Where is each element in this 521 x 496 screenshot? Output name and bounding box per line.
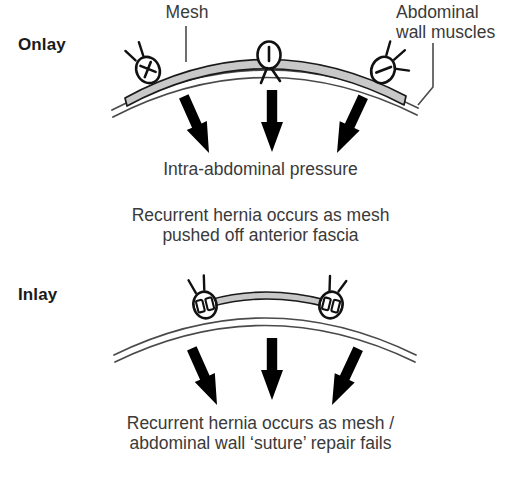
wall-leader-line <box>418 43 433 105</box>
onlay-caption-line1: Recurrent hernia occurs as mesh <box>132 205 390 225</box>
inlay-abdominal-wall-inner <box>115 326 415 363</box>
mesh-callout-label: Mesh <box>147 2 227 22</box>
onlay-section-label: Onlay <box>18 35 66 55</box>
inlay-caption-line2: abdominal wall ‘suture’ repair fails <box>130 433 392 453</box>
onlay-pressure-arrow-left <box>174 92 219 158</box>
onlay-caption-line2: pushed off anterior fascia <box>162 225 358 245</box>
onlay-caption: Recurrent hernia occurs as meshpushed of… <box>0 205 521 246</box>
inlay-abdominal-wall-outer <box>114 318 416 355</box>
inlay-mesh-band <box>209 292 327 307</box>
inlay-suture-knot-left <box>187 274 220 321</box>
inlay-caption: Recurrent hernia occurs as mesh /abdomin… <box>0 413 521 454</box>
abdominal-wall-callout-line1: Abdominal <box>396 2 479 22</box>
onlay-pressure-arrow-right <box>327 92 373 157</box>
inlay-pressure-arrow-left <box>182 344 227 410</box>
inlay-pressure-arrow-right <box>322 344 368 409</box>
inlay-caption-line1: Recurrent hernia occurs as mesh / <box>127 413 394 433</box>
onlay-pressure-arrow-middle <box>261 90 283 152</box>
onlay-panel <box>112 26 433 158</box>
inlay-pressure-arrow-middle <box>261 338 283 400</box>
inlay-suture-knot-right <box>317 275 349 321</box>
abdominal-wall-callout-line2: wall muscles <box>396 22 495 42</box>
inlay-section-label: Inlay <box>18 285 57 305</box>
abdominal-wall-callout-label: Abdominalwall muscles <box>396 2 521 43</box>
intra-abdominal-pressure-label: Intra-abdominal pressure <box>0 159 521 179</box>
onlay-suture-knot-left <box>125 39 165 88</box>
inlay-panel <box>114 274 416 410</box>
